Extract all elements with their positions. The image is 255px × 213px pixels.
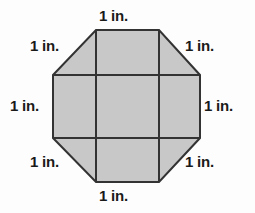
geometry-figure: 1 in. 1 in. 1 in. 1 in. 1 in. 1 in. 1 in… [0,0,255,213]
label-top-edge: 1 in. [99,8,128,23]
label-left-edge: 1 in. [10,98,39,113]
octagon-shape [53,30,200,182]
label-bottom-left-edge: 1 in. [30,154,59,169]
label-bottom-right-edge: 1 in. [185,154,214,169]
label-top-right-edge: 1 in. [185,38,214,53]
label-bottom-edge: 1 in. [99,188,128,203]
label-right-edge: 1 in. [204,98,233,113]
label-top-left-edge: 1 in. [30,38,59,53]
